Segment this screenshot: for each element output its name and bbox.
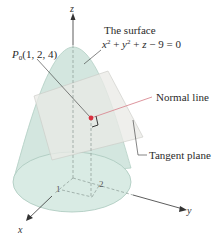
- normal-line-label: Normal line: [156, 92, 209, 103]
- eq-x-exp: 2: [107, 38, 111, 46]
- z-axis-label: z: [70, 4, 74, 14]
- x-axis-label: x: [18, 225, 22, 235]
- paraboloid-base: [13, 152, 131, 212]
- diagram-canvas: [0, 0, 216, 246]
- y-axis: [133, 195, 183, 209]
- point-p0: [89, 116, 94, 121]
- surface-label-text: The surface: [104, 24, 156, 36]
- y-tick-2: 2: [99, 180, 104, 189]
- x-tick-1: 1: [56, 185, 61, 194]
- tangent-plane-label: Tangent plane: [149, 150, 211, 161]
- point-label: P0(1, 2, 4): [12, 49, 57, 62]
- y-axis-arrow-icon: [179, 206, 187, 212]
- y-axis-label: y: [187, 206, 191, 216]
- surface-label: The surface: [104, 25, 156, 36]
- surface-equation: x2 + y2 + z − 9 = 0: [102, 39, 181, 50]
- eq-y-exp: 2: [127, 38, 131, 46]
- figure: The surface x2 + y2 + z − 9 = 0 P0(1, 2,…: [0, 0, 216, 246]
- point-coords: (1, 2, 4): [22, 48, 57, 60]
- z-axis-arrow-icon: [71, 13, 76, 20]
- point-name: P: [12, 48, 19, 60]
- eq-rest: − 9 = 0: [147, 38, 181, 50]
